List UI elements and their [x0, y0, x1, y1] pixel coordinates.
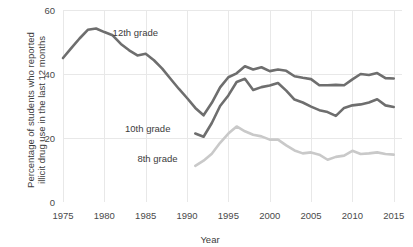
y-tick-label: 0: [50, 197, 55, 208]
y-tick-label: 60: [44, 5, 55, 16]
x-tick-label: 1980: [94, 210, 115, 221]
x-tick-label: 1975: [52, 210, 73, 221]
series-annotation-12th-grade: 12th grade: [113, 27, 158, 38]
y-axis-title-line1: Percentage of students who reported: [25, 32, 36, 188]
y-axis-title-line2: illicit drug use in the last 12 months: [36, 36, 47, 184]
x-tick-label: 2000: [259, 210, 280, 221]
series-annotation-10th-grade: 10th grade: [125, 123, 170, 134]
x-tick-label: 2005: [300, 210, 321, 221]
x-tick-label: 2015: [383, 210, 404, 221]
x-tick-label: 1990: [176, 210, 197, 221]
x-axis-tick-labels: 197519801985199019952000200520102015: [52, 210, 404, 221]
drug-use-line-chart: 0204060 19751980198519901995200020052010…: [0, 0, 413, 247]
x-tick-label: 1985: [135, 210, 156, 221]
x-tick-label: 2010: [342, 210, 363, 221]
chart-canvas: 0204060 19751980198519901995200020052010…: [0, 0, 413, 247]
series-annotation-8th-grade: 8th grade: [137, 153, 177, 164]
x-tick-label: 1995: [218, 210, 239, 221]
x-axis-title: Year: [200, 234, 219, 245]
